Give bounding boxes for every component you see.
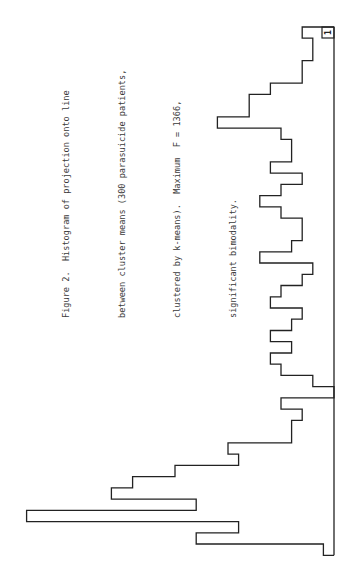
label-box-text: 1	[324, 30, 333, 35]
label-box: 1	[322, 27, 334, 38]
histogram-chart: 1	[0, 0, 356, 584]
histogram-outline	[27, 27, 334, 555]
